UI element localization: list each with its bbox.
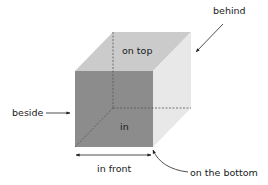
cube-front-face [75,71,153,147]
label-in-front: in front [97,163,132,174]
behind-arrow-icon [196,24,223,52]
label-in: in [120,121,129,132]
on-the-bottom-curve-arrow-icon [153,150,188,172]
cube-diagram: on top in behind beside in front on the … [0,0,268,185]
label-behind: behind [213,5,246,16]
label-on-the-bottom: on the bottom [190,167,258,178]
label-on-top: on top [122,45,152,56]
label-beside: beside [12,107,43,118]
